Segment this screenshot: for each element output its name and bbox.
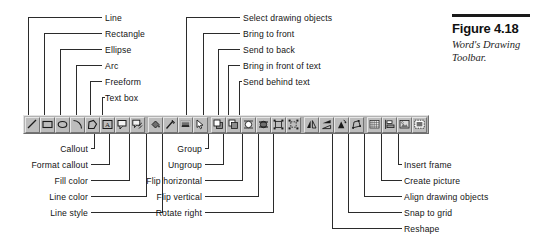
toolbar-button-text-box-icon[interactable]: A: [100, 117, 115, 133]
callout-label-format-callout: Format callout: [10, 160, 88, 170]
callout-label-snap-to-grid: Snap to grid: [404, 208, 452, 218]
leader-drop-rotate-right: [273, 134, 274, 212]
callout-label-arc: Arc: [105, 61, 118, 71]
callout-label-bring-in-front-of-text: Bring in front of text: [243, 61, 321, 71]
figure-number: Figure 4.18: [452, 21, 532, 36]
toolbar-group-transform: [304, 116, 364, 133]
toolbar-button-fill-color-icon[interactable]: [148, 117, 163, 133]
leader-drop-group: [208, 134, 209, 148]
toolbar-button-reshape-icon[interactable]: [349, 117, 364, 133]
leader-drop-callout: [94, 134, 95, 148]
callout-label-freeform: Freeform: [105, 77, 141, 87]
callout-label-insert-frame: Insert frame: [404, 160, 452, 170]
callout-label-flip-horizontal: Flip horizontal: [110, 176, 202, 186]
callout-label-line-color: Line color: [10, 192, 88, 202]
toolbar-group-order: [211, 116, 301, 133]
figure-4-18: Line Rectangle Ellipse Arc Freeform Text…: [0, 0, 541, 239]
leader-line-bring-in-front-of-text: [228, 65, 240, 66]
toolbar-button-send-behind-text-icon[interactable]: [256, 117, 271, 133]
toolbar-group-layout: [367, 116, 427, 133]
callout-label-ellipse: Ellipse: [105, 45, 131, 55]
leader-drop-ellipse: [60, 49, 61, 115]
caption-rule: [452, 14, 530, 17]
callout-label-rectangle: Rectangle: [105, 29, 145, 39]
toolbar-button-select-objects-icon[interactable]: [193, 117, 208, 133]
leader-drop-snap-to-grid: [348, 134, 349, 212]
leader-drop-text-box: [102, 97, 103, 115]
leader-line-ungroup: [205, 164, 224, 165]
toolbar-button-flip-vertical-icon[interactable]: [319, 117, 334, 133]
toolbar-button-align-drawing-objects-icon[interactable]: [382, 117, 397, 133]
figure-caption: Figure 4.18 Word's Drawing Toolbar.: [452, 14, 532, 64]
leader-line-rotate-right: [205, 212, 274, 213]
leader-line-snap-to-grid: [348, 212, 402, 213]
leader-drop-fill-color: [129, 134, 130, 180]
leader-drop-arc: [76, 65, 77, 115]
leader-line-create-picture: [381, 180, 402, 181]
leader-drop-create-picture: [381, 134, 382, 180]
toolbar-button-create-picture-icon[interactable]: [397, 117, 412, 133]
toolbar-button-bring-in-front-of-text-icon[interactable]: [241, 117, 256, 133]
toolbar-button-snap-to-grid-icon[interactable]: [367, 117, 382, 133]
leader-drop-flip-horizontal: [242, 134, 243, 180]
leader-drop-bring-to-front: [203, 33, 204, 115]
leader-line-freeform: [90, 81, 102, 82]
toolbar-button-rotate-right-icon[interactable]: [334, 117, 349, 133]
leader-line-arc: [76, 65, 102, 66]
leader-line-send-to-back: [218, 49, 240, 50]
toolbar-button-line-icon[interactable]: [25, 117, 40, 133]
leader-line-group: [205, 148, 209, 149]
callout-label-ungroup: Ungroup: [110, 160, 202, 170]
toolbar-button-send-to-back-icon[interactable]: [226, 117, 241, 133]
toolbar-button-line-color-icon[interactable]: [163, 117, 178, 133]
leader-line-reshape: [332, 228, 402, 229]
leader-line-align-drawing-objects: [364, 196, 402, 197]
toolbar-button-rectangle-icon[interactable]: [40, 117, 55, 133]
callout-label-line: Line: [105, 13, 122, 23]
leader-line-insert-frame: [398, 164, 402, 165]
toolbar-group-shapes: A: [25, 116, 145, 133]
leader-drop-rectangle: [44, 33, 45, 115]
toolbar-button-freeform-icon[interactable]: [85, 117, 100, 133]
drawing-toolbar[interactable]: A: [23, 115, 429, 134]
toolbar-button-bring-to-front-icon[interactable]: [211, 117, 226, 133]
toolbar-button-callout-icon[interactable]: [115, 117, 130, 133]
figure-subtitle: Word's Drawing Toolbar.: [452, 39, 532, 64]
toolbar-group-format: [148, 116, 208, 133]
leader-drop-send-to-back: [218, 49, 219, 115]
leader-line-select-drawing-objects: [186, 17, 240, 18]
toolbar-button-ellipse-icon[interactable]: [55, 117, 70, 133]
leader-drop-send-behind-text: [239, 81, 240, 115]
toolbar-button-ungroup-icon[interactable]: [286, 117, 301, 133]
svg-text:A: A: [105, 121, 110, 129]
toolbar-button-group-icon[interactable]: [271, 117, 286, 133]
leader-drop-align-drawing-objects: [364, 134, 365, 196]
leader-line-bring-to-front: [203, 33, 240, 34]
callout-label-flip-vertical: Flip vertical: [110, 192, 202, 202]
callout-label-create-picture: Create picture: [404, 176, 460, 186]
callout-label-send-behind-text: Send behind text: [243, 77, 310, 87]
callout-label-send-to-back: Send to back: [243, 45, 295, 55]
callout-label-line-style: Line style: [10, 208, 88, 218]
callout-label-fill-color: Fill color: [10, 176, 88, 186]
leader-drop-flip-vertical: [258, 134, 259, 196]
callout-label-text-box: Text box: [105, 93, 138, 103]
leader-drop-reshape: [332, 134, 333, 228]
leader-line-format-callout: [91, 164, 110, 165]
leader-drop-bring-in-front-of-text: [228, 65, 229, 115]
toolbar-button-flip-horizontal-icon[interactable]: [304, 117, 319, 133]
leader-line-rectangle: [44, 33, 102, 34]
callout-label-group: Group: [110, 144, 202, 154]
callout-label-select-drawing-objects: Select drawing objects: [243, 13, 332, 23]
leader-drop-ungroup: [223, 134, 224, 164]
toolbar-button-line-style-icon[interactable]: [178, 117, 193, 133]
leader-line-line: [28, 17, 102, 18]
leader-line-flip-horizontal: [205, 180, 243, 181]
callout-label-callout: Callout: [10, 144, 88, 154]
callout-label-align-drawing-objects: Align drawing objects: [404, 192, 488, 202]
callout-label-rotate-right: Rotate right: [110, 208, 202, 218]
toolbar-button-format-callout-icon[interactable]: [130, 117, 145, 133]
leader-drop-insert-frame: [398, 134, 399, 164]
toolbar-button-arc-icon[interactable]: [70, 117, 85, 133]
toolbar-button-insert-frame-icon[interactable]: [412, 117, 427, 133]
